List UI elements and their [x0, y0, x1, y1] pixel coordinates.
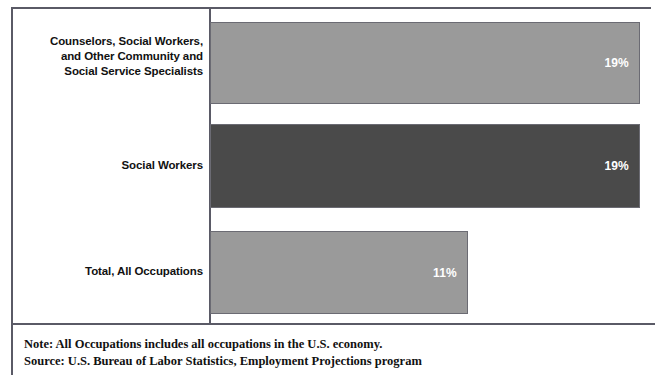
bar-total-all-occupations[interactable]: 11% [210, 231, 468, 314]
category-label-line: Social Service Specialists [14, 64, 203, 79]
chart-figure: Counselors, Social Workers, and Other Co… [0, 0, 655, 382]
footer-divider [11, 323, 651, 325]
bar-value-label: 11% [433, 266, 457, 280]
bar-counselors-social-workers[interactable]: 19% [210, 22, 640, 104]
bar-row: Counselors, Social Workers, and Other Co… [0, 22, 655, 104]
category-label-line: and Other Community and [14, 49, 203, 64]
category-label-line: Total, All Occupations [14, 264, 203, 279]
bar-row: Total, All Occupations 11% [0, 231, 655, 314]
category-label: Total, All Occupations [14, 264, 203, 279]
category-label-line: Social Workers [14, 158, 203, 173]
footnotes: Note: All Occupations includes all occup… [24, 336, 634, 370]
category-label: Social Workers [14, 158, 203, 173]
category-label: Counselors, Social Workers, and Other Co… [14, 34, 203, 79]
category-label-line: Counselors, Social Workers, [14, 34, 203, 49]
chart-source: Source: U.S. Bureau of Labor Statistics,… [24, 353, 634, 370]
chart-note: Note: All Occupations includes all occup… [24, 336, 634, 353]
bar-row: Social Workers 19% [0, 124, 655, 208]
bar-value-label: 19% [604, 159, 629, 173]
bar-value-label: 19% [604, 56, 629, 70]
bar-social-workers[interactable]: 19% [210, 124, 640, 208]
